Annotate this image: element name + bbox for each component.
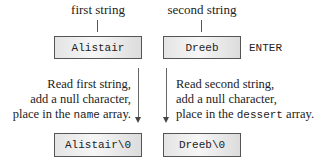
second-string-caption: second string bbox=[163, 2, 241, 18]
input-box-second-string: Dreeb bbox=[163, 36, 241, 59]
name-array-box: Alistair\0 bbox=[54, 133, 142, 157]
left-description-line3: place in the name array. bbox=[13, 107, 131, 123]
right-description-line3-pre: place in the bbox=[176, 107, 237, 121]
second-string-tick bbox=[201, 20, 202, 32]
left-flow-arrowhead-icon bbox=[135, 117, 141, 123]
left-description-line1: Read first string, bbox=[13, 77, 131, 92]
right-flow-arrow-shaft bbox=[166, 68, 167, 118]
first-string-tick bbox=[97, 20, 98, 32]
dessert-array-box: Dreeb\0 bbox=[163, 133, 241, 157]
input-box-first-string: Alistair bbox=[54, 36, 142, 59]
left-description-line3-post: array. bbox=[100, 107, 131, 121]
enter-key-label: ENTER bbox=[249, 42, 282, 54]
left-description-line2: add a null character, bbox=[13, 92, 131, 107]
right-description: Read second string, add a null character… bbox=[176, 77, 314, 123]
right-flow-arrowhead-icon bbox=[163, 117, 169, 123]
right-description-line2: add a null character, bbox=[176, 92, 314, 107]
left-description-line3-pre: place in the bbox=[13, 107, 74, 121]
right-description-line3: place in the dessert array. bbox=[176, 107, 314, 123]
right-description-line1: Read second string, bbox=[176, 77, 314, 92]
first-string-caption: first string bbox=[54, 2, 142, 18]
left-flow-arrow-shaft bbox=[138, 68, 139, 118]
left-description: Read first string, add a null character,… bbox=[13, 77, 131, 123]
right-description-line3-post: array. bbox=[283, 107, 314, 121]
name-array-code: name bbox=[73, 109, 99, 121]
dessert-array-code: dessert bbox=[237, 109, 283, 121]
